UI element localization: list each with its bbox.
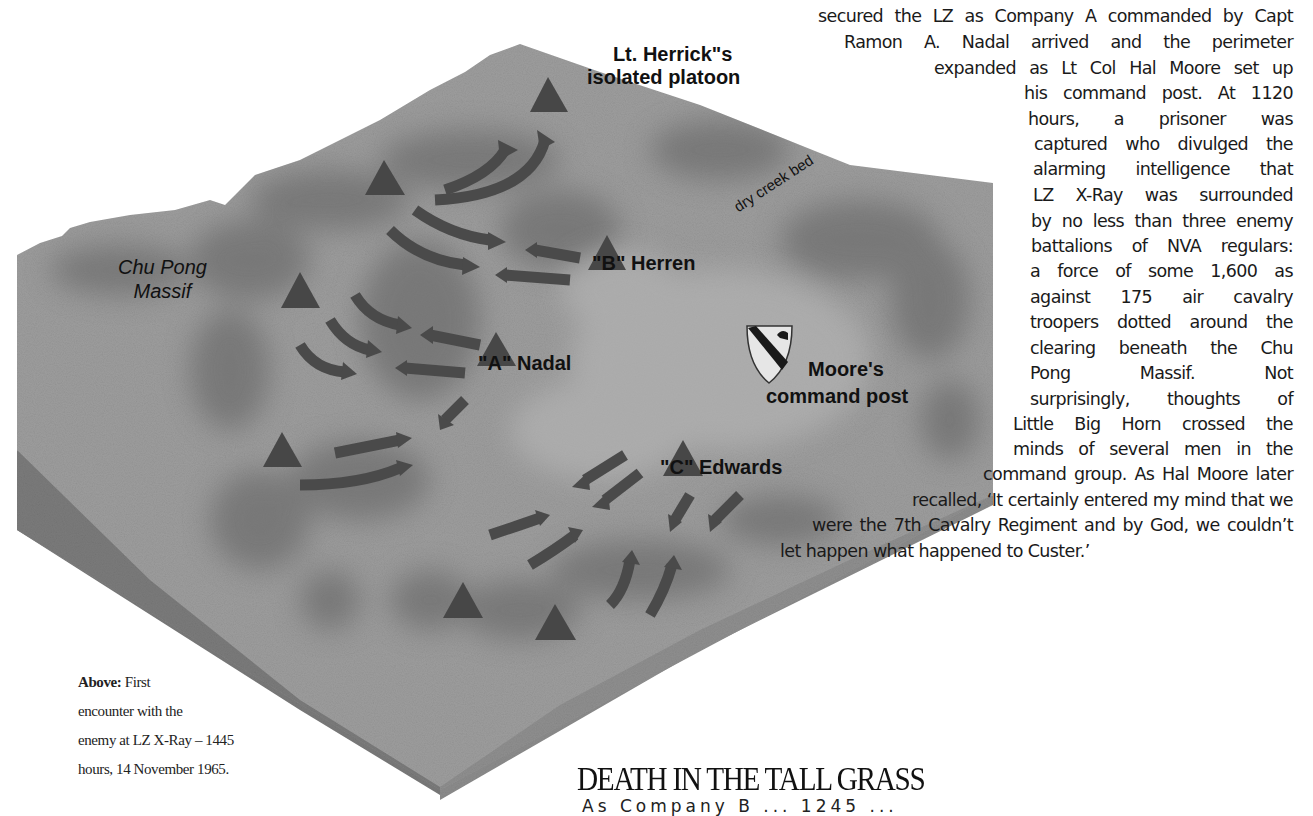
map-label-command-post: Moore's command post: [766, 356, 908, 410]
article-line: hours, a prisoner was: [1028, 107, 1293, 132]
article-line: clearing beneath the Chu: [1030, 336, 1293, 361]
article-line: secured the LZ as Company A commanded by…: [818, 4, 1293, 29]
caption-text: First: [125, 674, 151, 690]
article-line: surprisingly, thoughts of: [1030, 387, 1293, 412]
map-label-company-a: "A" Nadal: [478, 352, 571, 375]
article-line: let happen what happened to Custer.’: [780, 539, 1293, 564]
map-label-chu-pong-massif: Chu Pong Massif: [118, 255, 207, 303]
figure-caption: Above: First encounter with the enemy at…: [78, 668, 234, 784]
article-line: Ramon A. Nadal arrived and the perimeter: [844, 30, 1293, 55]
section-heading: DEATH IN THE TALL GRASS: [577, 760, 925, 798]
article-line: Little Big Horn crossed the: [1013, 412, 1293, 437]
article-line: minds of several men in the: [1013, 437, 1293, 462]
caption-lead: Above:: [78, 674, 121, 690]
article-line: troopers dotted around the: [1030, 310, 1293, 335]
article-line: Pong Massif. Not: [1030, 361, 1293, 386]
article-line: a force of some 1,600 as: [1030, 259, 1293, 284]
article-line: against 175 air cavalry: [1030, 285, 1293, 310]
article-line: expanded as Lt Col Hal Moore set up: [934, 56, 1293, 81]
caption-text: enemy at LZ X-Ray – 1445: [78, 726, 234, 755]
map-label-herrick: Lt. Herrick"s isolated platoon: [605, 43, 740, 89]
article-line: LZ X-Ray was surrounded: [1033, 183, 1293, 208]
article-line: alarming intelligence that: [1033, 157, 1293, 182]
article-line: his command post. At 1120: [1024, 81, 1293, 106]
article-line: captured who divulged the: [1034, 132, 1293, 157]
caption-text: hours, 14 November 1965.: [78, 755, 234, 784]
article-cutoff-line: As Company B ... 1245 ...: [582, 796, 898, 816]
map-label-company-c: "C" Edwards: [660, 456, 782, 479]
article-line: were the 7th Cavalry Regiment and by God…: [812, 513, 1293, 538]
article-line: recalled, ‘It certainly entered my mind …: [912, 488, 1293, 513]
map-label-company-b: "B" Herren: [592, 252, 695, 275]
article-line: battalions of NVA regulars:: [1031, 234, 1293, 259]
article-line: command group. As Hal Moore later: [983, 462, 1293, 487]
caption-text: encounter with the: [78, 697, 234, 726]
article-line: by no less than three enemy: [1031, 209, 1293, 234]
